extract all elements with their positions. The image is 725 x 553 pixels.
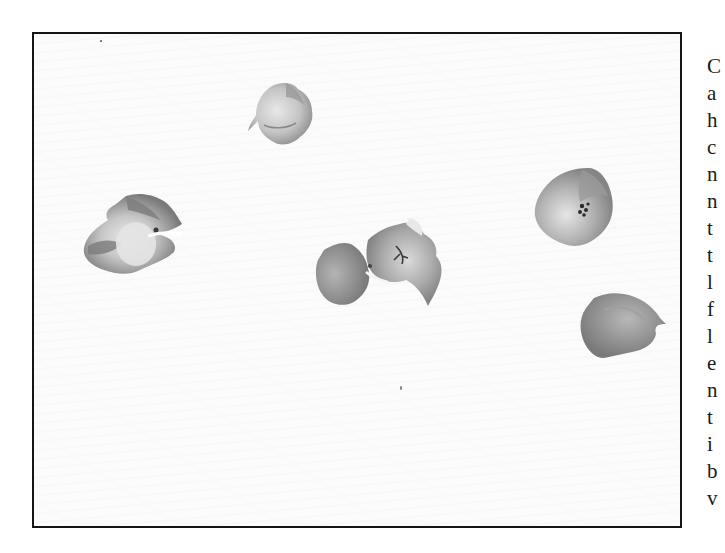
text-line: b	[707, 461, 718, 482]
text-line: C	[707, 56, 721, 77]
flower-left	[78, 190, 186, 278]
text-line: c	[707, 137, 716, 158]
text-line: h	[707, 110, 718, 131]
text-line: l	[707, 272, 713, 293]
text-line: f	[707, 299, 714, 320]
text-line: t	[707, 218, 713, 239]
dust-speck	[400, 386, 402, 390]
text-line: v	[707, 488, 718, 509]
flower-top-center	[246, 79, 318, 149]
text-line: l	[707, 326, 713, 347]
text-line: t	[707, 407, 713, 428]
text-line: a	[707, 83, 716, 104]
text-line: e	[707, 353, 716, 374]
flower-right-lower	[574, 290, 666, 360]
dust-speck	[100, 40, 102, 42]
photo-frame	[32, 32, 682, 528]
text-line: t	[707, 245, 713, 266]
flower-center-cluster	[314, 210, 450, 310]
text-line: i	[707, 434, 713, 455]
text-line: n	[707, 191, 718, 212]
flower-right-upper	[528, 166, 616, 248]
text-line: n	[707, 164, 718, 185]
text-line: n	[707, 380, 718, 401]
